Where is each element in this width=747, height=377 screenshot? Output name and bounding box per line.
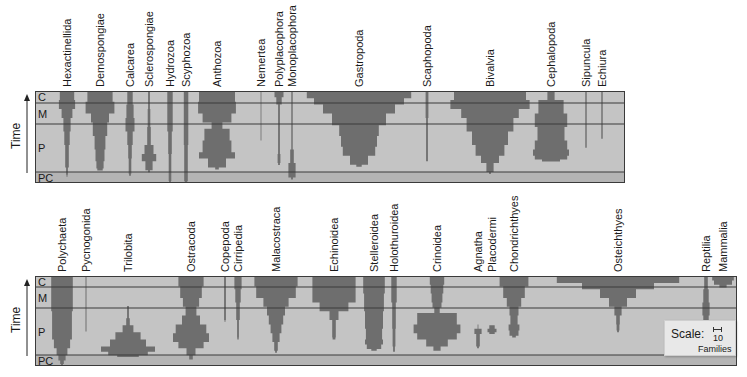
scale-bar-icon	[713, 329, 722, 330]
spindle-stelleroidea	[363, 276, 385, 353]
era-label-c: C	[38, 91, 46, 103]
taxon-label: Agnatha	[472, 230, 484, 272]
era-label-pc: PC	[38, 355, 53, 367]
time-arrow-icon	[24, 279, 30, 286]
taxon-label: Reptilia	[700, 234, 712, 272]
taxon-label: Gastropoda	[353, 29, 365, 87]
time-axis-label: Time	[9, 306, 23, 333]
spindle-diagram: HexactinellidaDemospongiaeCalcareaSclero…	[0, 0, 747, 377]
taxon-label: Nemertea	[255, 38, 267, 87]
taxon-label: Copepoda	[219, 220, 231, 272]
taxon-label: Cirripedia	[232, 224, 244, 272]
taxon-label: Bivalvia	[484, 48, 496, 87]
taxon-label: Calcarea	[124, 42, 136, 87]
spindle-scyphozoa	[184, 91, 189, 183]
taxon-label: Sipuncula	[580, 38, 592, 87]
taxon-label: Osteichthyes	[612, 208, 624, 272]
spindle-cephalopoda	[533, 91, 569, 161]
taxon-label: Holothuroidea	[388, 203, 400, 272]
taxon-label: Echiura	[596, 49, 608, 87]
panel-top: HexactinellidaDemospongiaeCalcareaSclero…	[9, 4, 625, 183]
scale-label: Scale:	[671, 327, 704, 341]
taxon-label: Sclerospongiae	[143, 11, 155, 87]
era-label-c: C	[38, 276, 46, 288]
time-axis-label: Time	[9, 122, 23, 149]
taxon-label: Cephalopoda	[545, 21, 557, 87]
era-label-p: P	[38, 142, 45, 154]
taxon-label: Anthozoa	[211, 40, 223, 87]
spindle-pycnogonida	[86, 276, 87, 333]
taxon-label: Chondrichthyes	[508, 195, 520, 272]
taxon-label: Echinoidea	[328, 217, 340, 272]
taxon-label: Mammalia	[717, 220, 729, 272]
spindle-copepoda	[224, 276, 226, 324]
taxon-label: Crinoidea	[431, 224, 443, 272]
taxon-label: Placodermi	[486, 217, 498, 272]
taxon-label: Demospongiae	[94, 13, 106, 87]
era-label-m: M	[38, 292, 47, 304]
panel-bottom: PolychaetaPycnogonidaTrilobitaOstracodaC…	[9, 195, 737, 366]
taxon-label: Hexactinellida	[61, 18, 73, 87]
scale-unit: Families	[698, 344, 732, 354]
taxon-label: Monoplacophora	[286, 4, 298, 87]
time-arrow-icon	[24, 94, 30, 101]
spindle-sipuncula	[585, 91, 586, 150]
taxon-label: Scyphozoa	[180, 32, 192, 87]
taxon-label: Scaphopoda	[421, 24, 433, 87]
era-label-p: P	[38, 326, 45, 338]
spindle-nemertea	[261, 91, 262, 143]
taxon-label: Hydrozoa	[164, 39, 176, 87]
taxon-label: Trilobita	[122, 232, 134, 272]
taxon-label: Polychaeta	[56, 217, 68, 272]
era-label-m: M	[38, 108, 47, 120]
taxon-label: Ostracoda	[185, 220, 197, 272]
taxon-label: Stelleroidea	[368, 213, 380, 272]
taxon-label: Pycnogonida	[80, 208, 92, 272]
scale-legend: Scale: 10 Families	[664, 320, 736, 356]
spindle-echiura	[601, 91, 602, 141]
taxon-label: Polyplacophora	[273, 10, 285, 87]
era-label-pc: PC	[38, 172, 53, 184]
taxon-label: Malacostraca	[270, 206, 282, 272]
scale-value: 10	[713, 333, 723, 343]
